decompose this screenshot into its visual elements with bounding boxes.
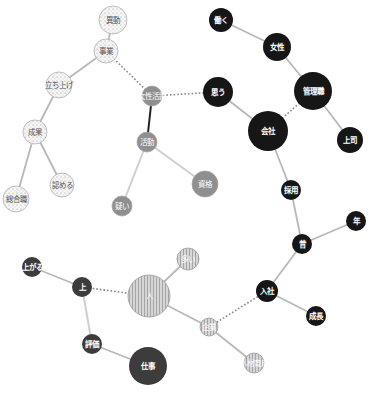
node-label: 上がる <box>22 262 43 272</box>
node-label: 採用 <box>284 185 298 195</box>
node-josei[interactable]: 女性 <box>263 33 291 61</box>
node-sogoshoku[interactable]: 総合職 <box>3 186 29 212</box>
node-jigyo[interactable]: 事業 <box>94 39 118 63</box>
node-mukashi[interactable]: 昔 <box>292 234 312 254</box>
node-label: 昔 <box>299 239 307 249</box>
node-saiyo[interactable]: 採用 <box>281 180 301 200</box>
node-label: 認める <box>52 180 73 190</box>
node-label: 活動 <box>140 137 155 147</box>
node-label: 異動 <box>106 16 121 25</box>
node-label: 人 <box>146 292 154 301</box>
node-kanrishoku[interactable]: 管理職 <box>294 72 332 110</box>
node-label: 上司 <box>343 135 357 145</box>
node-shigoto[interactable]: 仕事 <box>129 347 167 385</box>
node-label: 会社 <box>261 126 276 136</box>
node-utagai[interactable]: 疑い <box>112 196 132 216</box>
node-label: 女性活躍 <box>138 91 167 101</box>
node-hyoka[interactable]: 評価 <box>82 334 102 354</box>
node-label: 人材育成 <box>240 358 269 368</box>
node-label: 立ち上げ <box>45 80 74 90</box>
node-label: 成果 <box>28 127 43 137</box>
node-label: 資格 <box>198 179 213 189</box>
node-nen[interactable]: 年 <box>346 211 366 231</box>
node-ooi[interactable]: 多い <box>177 248 199 270</box>
node-nyusha[interactable]: 入社 <box>256 280 278 302</box>
node-katsudo[interactable]: 活動 <box>137 132 157 152</box>
node-kaisha[interactable]: 会社 <box>248 111 288 151</box>
network-svg: 異動事業立ち上げ成果総合職認める女性活躍活動疑い資格働く女性管理職思う会社上司採… <box>0 0 370 393</box>
node-ue[interactable]: 上 <box>72 277 92 297</box>
node-seika[interactable]: 成果 <box>23 120 47 144</box>
node-seicho[interactable]: 成長 <box>306 306 326 326</box>
node-label: 総合職 <box>6 194 28 204</box>
node-hito[interactable]: 人 <box>128 275 170 317</box>
node-label: 年 <box>353 216 361 226</box>
node-mitomeru[interactable]: 認める <box>50 173 74 197</box>
node-agaru[interactable]: 上がる <box>22 257 43 277</box>
node-label: 多い <box>181 254 195 264</box>
node-omou[interactable]: 思う <box>203 77 233 107</box>
node-tachiage[interactable]: 立ち上げ <box>45 72 74 98</box>
node-hataraku[interactable]: 働く <box>209 8 233 32</box>
node-label: 疑い <box>115 201 129 211</box>
node-joshi[interactable]: 上司 <box>337 127 363 153</box>
node-label: 働く <box>213 15 228 25</box>
node-label: 仕事 <box>140 361 156 371</box>
node-label: 入社 <box>259 286 275 296</box>
node-shikaku[interactable]: 資格 <box>192 171 218 197</box>
node-label: 管理職 <box>303 86 325 96</box>
node-label: 女性 <box>270 42 285 52</box>
node-label: 評価 <box>85 339 100 349</box>
node-label: 事業 <box>99 46 114 56</box>
node-label: 上 <box>79 282 87 292</box>
node-kigyo[interactable]: 企業 <box>200 318 218 336</box>
network-diagram: 異動事業立ち上げ成果総合職認める女性活躍活動疑い資格働く女性管理職思う会社上司採… <box>0 0 370 393</box>
node-joseikatsuyaku[interactable]: 女性活躍 <box>138 86 167 106</box>
nodes-layer: 異動事業立ち上げ成果総合職認める女性活躍活動疑い資格働く女性管理職思う会社上司採… <box>3 6 366 385</box>
node-label: 企業 <box>202 322 217 332</box>
node-label: 成長 <box>309 311 324 321</box>
node-idou[interactable]: 異動 <box>99 6 127 34</box>
node-label: 思う <box>211 88 225 97</box>
